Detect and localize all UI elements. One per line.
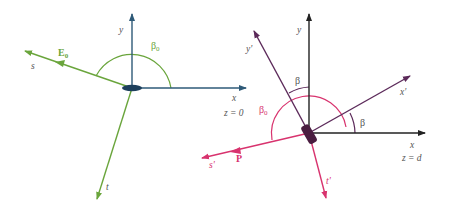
beta0-label-left: β0 bbox=[151, 40, 160, 53]
y-prime-label: y' bbox=[245, 44, 253, 54]
t-prime-label: t' bbox=[326, 176, 332, 186]
s-prime-axis bbox=[202, 133, 309, 158]
e0-arrow-icon bbox=[55, 60, 65, 67]
y-prime-axis bbox=[254, 31, 309, 133]
s-prime-label: s' bbox=[209, 160, 216, 170]
left-frame: y x z = 0 β0 E0 s t bbox=[25, 14, 246, 199]
t-axis-left bbox=[97, 88, 132, 199]
beta-arc-top bbox=[289, 87, 309, 93]
polarization-rotation-diagram: y x z = 0 β0 E0 s t y x z = d y' bbox=[0, 0, 450, 212]
plane-label-right: z = d bbox=[401, 153, 422, 163]
y-label-left: y bbox=[118, 25, 124, 35]
y-label-right: y bbox=[296, 25, 302, 35]
x-prime-label: x' bbox=[399, 87, 407, 97]
x-label-right: x bbox=[409, 140, 415, 150]
plane-label-left: z = 0 bbox=[223, 108, 244, 118]
p-label: P bbox=[236, 153, 242, 164]
s-label-left: s bbox=[31, 61, 35, 71]
right-frame: y x z = d y' x' β β β0 P s' t' bbox=[202, 14, 425, 198]
t-label-left: t bbox=[106, 182, 109, 192]
beta-label-right: β bbox=[360, 117, 365, 128]
beta0-label-right: β0 bbox=[259, 104, 268, 117]
optic-element-left-icon bbox=[122, 85, 142, 91]
beta-label-top: β bbox=[295, 75, 300, 86]
e0-label: E0 bbox=[58, 47, 69, 60]
beta-arc-right bbox=[350, 113, 355, 133]
s-axis-left bbox=[25, 51, 132, 88]
x-label-left: x bbox=[231, 93, 237, 103]
beta0-arc-left bbox=[96, 54, 171, 88]
